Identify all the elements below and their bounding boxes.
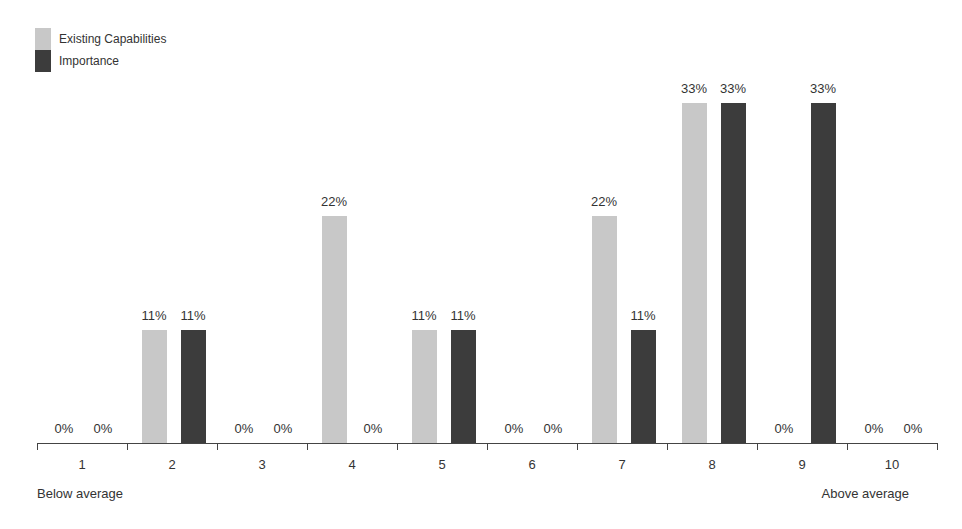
value-label-importance: 33%	[713, 81, 753, 96]
value-label-existing: 0%	[224, 421, 264, 436]
x-axis-label: 4	[307, 457, 397, 472]
value-label-importance: 0%	[533, 421, 573, 436]
value-label-existing: 22%	[314, 194, 354, 209]
value-label-existing: 0%	[764, 421, 804, 436]
x-axis-tick	[577, 443, 578, 450]
legend-label-existing: Existing Capabilities	[59, 32, 166, 46]
x-axis-label: 5	[397, 457, 487, 472]
bar-importance	[451, 330, 476, 443]
value-label-importance: 33%	[803, 81, 843, 96]
value-label-importance: 11%	[443, 308, 483, 323]
category-group-10: 0%0%	[847, 60, 937, 443]
x-axis-label: 6	[487, 457, 577, 472]
value-label-existing: 11%	[134, 308, 174, 323]
value-label-importance: 11%	[173, 308, 213, 323]
bar-existing	[412, 330, 437, 443]
category-group-9: 0%33%	[757, 60, 847, 443]
value-label-existing: 0%	[44, 421, 84, 436]
x-axis-label: 9	[757, 457, 847, 472]
value-label-existing: 11%	[404, 308, 444, 323]
bar-existing	[682, 103, 707, 443]
x-axis-tick	[217, 443, 218, 450]
x-axis-label: 10	[847, 457, 937, 472]
x-axis-tick	[667, 443, 668, 450]
x-axis-tick	[757, 443, 758, 450]
axis-annotation-left: Below average	[37, 486, 123, 501]
category-group-4: 22%0%	[307, 60, 397, 443]
category-group-7: 22%11%	[577, 60, 667, 443]
value-label-importance: 0%	[263, 421, 303, 436]
value-label-existing: 22%	[584, 194, 624, 209]
axis-annotation-right: Above average	[822, 486, 909, 501]
category-group-5: 11%11%	[397, 60, 487, 443]
x-axis-label: 2	[127, 457, 217, 472]
x-axis-tick	[487, 443, 488, 450]
value-label-importance: 11%	[623, 308, 663, 323]
value-label-existing: 0%	[494, 421, 534, 436]
x-axis-label: 1	[37, 457, 127, 472]
bar-importance	[721, 103, 746, 443]
value-label-importance: 0%	[83, 421, 123, 436]
x-axis-label: 7	[577, 457, 667, 472]
bar-existing	[592, 216, 617, 443]
bar-importance	[181, 330, 206, 443]
x-axis-label: 3	[217, 457, 307, 472]
legend-swatch-existing	[35, 28, 51, 50]
category-group-2: 11%11%	[127, 60, 217, 443]
x-axis-label: 8	[667, 457, 757, 472]
bar-existing	[142, 330, 167, 443]
value-label-importance: 0%	[893, 421, 933, 436]
x-axis-tick	[847, 443, 848, 450]
x-axis-tick	[397, 443, 398, 450]
x-axis-tick	[127, 443, 128, 450]
bar-existing	[322, 216, 347, 443]
legend-item-existing: Existing Capabilities	[35, 28, 166, 50]
bar-importance	[811, 103, 836, 443]
value-label-importance: 0%	[353, 421, 393, 436]
value-label-existing: 33%	[674, 81, 714, 96]
category-group-8: 33%33%	[667, 60, 757, 443]
category-group-3: 0%0%	[217, 60, 307, 443]
x-axis-tick	[37, 443, 38, 450]
value-label-existing: 0%	[854, 421, 894, 436]
category-group-6: 0%0%	[487, 60, 577, 443]
category-group-1: 0%0%	[37, 60, 127, 443]
x-axis-tick	[307, 443, 308, 450]
x-axis-tick	[937, 443, 938, 450]
bar-importance	[631, 330, 656, 443]
plot-area: 0%0%11%11%0%0%22%0%11%11%0%0%22%11%33%33…	[37, 60, 937, 443]
